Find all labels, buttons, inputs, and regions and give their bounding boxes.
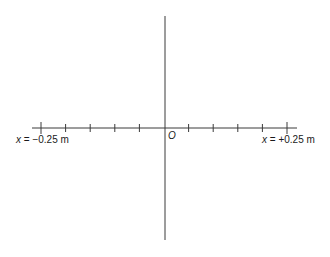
left-endpoint-label: x = −0.25 m bbox=[15, 134, 69, 145]
right-endpoint-label: x = +0.25 m bbox=[261, 134, 315, 145]
left-equals: = bbox=[21, 134, 32, 145]
right-equals: = bbox=[267, 134, 278, 145]
origin-label: O bbox=[168, 130, 176, 141]
right-value: +0.25 bbox=[278, 134, 304, 145]
right-unit: m bbox=[304, 134, 315, 145]
left-unit: m bbox=[58, 134, 69, 145]
left-value: −0.25 bbox=[32, 134, 58, 145]
axes-diagram: O x = −0.25 m x = +0.25 m bbox=[0, 0, 330, 257]
